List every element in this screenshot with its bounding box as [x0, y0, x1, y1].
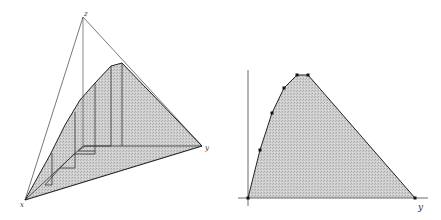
right-cross-section-chart: y	[238, 70, 428, 212]
vertex-point	[296, 74, 299, 77]
vertex-point	[259, 149, 262, 152]
figure-canvas: z x y y	[0, 0, 441, 220]
label-y-left: y	[204, 144, 210, 152]
left-simplex-diagram: z x y	[20, 10, 210, 209]
shaded-region-2d	[248, 75, 415, 198]
vertex-point	[283, 87, 286, 90]
label-x: x	[20, 201, 24, 209]
label-y-axis: y	[417, 202, 424, 212]
vertex-point	[247, 197, 250, 200]
vertex-point	[271, 112, 274, 115]
vertex-point	[307, 74, 310, 77]
label-z: z	[83, 10, 88, 18]
shaded-region-3d	[25, 63, 202, 200]
vertex-point	[414, 197, 417, 200]
